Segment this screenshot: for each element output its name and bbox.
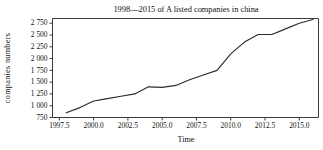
y-tick-label: 2 250 [31,42,48,51]
chart-figure: 1998—2015 of A listed companies in china… [0,0,323,150]
y-tick-label: 1 250 [31,89,48,98]
x-tick-label: 1997.5 [49,121,70,130]
y-tick-label: 2 750 [31,18,48,27]
data-series-group [66,19,313,112]
y-tick-label: 2 000 [31,54,48,63]
line-chart: 1998—2015 of A listed companies in china… [0,0,323,150]
y-axis-ticks: 7501 0001 2501 5001 7502 0002 2502 5002 … [31,18,53,121]
y-tick-label: 1 750 [31,66,48,75]
data-line-a-listed-companies [66,19,313,112]
x-tick-label: 2005.0 [152,121,173,130]
x-tick-label: 2007.5 [186,121,207,130]
y-tick-label: 1 500 [31,77,48,86]
y-tick-label: 1 000 [31,101,48,110]
x-tick-label: 2002.5 [118,121,139,130]
axes-frame [53,19,319,118]
y-tick-label: 2 500 [31,30,48,39]
y-axis-title: companies numbers [3,33,12,103]
plot-frame [53,19,319,118]
x-axis-title: Time [178,135,195,144]
chart-title: 1998—2015 of A listed companies in china [113,5,258,14]
x-tick-label: 2000.0 [83,121,104,130]
x-axis-ticks: 1997.52000.02002.52005.02007.52010.02012… [49,118,310,131]
x-tick-label: 2012.5 [255,121,276,130]
x-tick-label: 2010.0 [221,121,242,130]
y-tick-label: 750 [36,113,47,122]
x-tick-label: 2015.0 [289,121,310,130]
